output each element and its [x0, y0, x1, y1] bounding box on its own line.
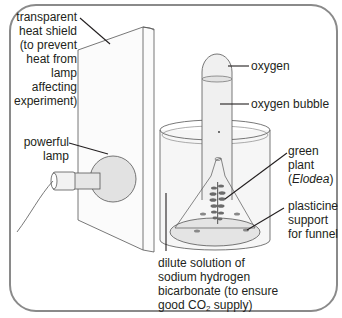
- plant-label-line: plant: [288, 158, 333, 172]
- paren-close: ): [329, 172, 333, 186]
- support-label-line: for funnel: [288, 227, 338, 241]
- solution-label-line: dilute solution of: [158, 256, 278, 270]
- lamp-label-line: powerful: [14, 135, 69, 149]
- lamp-label: powerful lamp: [14, 135, 69, 163]
- diagram-canvas: transparent heat shield (to prevent heat…: [0, 0, 342, 318]
- co2-text: good CO: [158, 298, 206, 312]
- plant-label-line: green: [288, 144, 333, 158]
- oxygen-label: oxygen: [251, 59, 290, 73]
- heat-shield-label: transparent heat shield (to prevent heat…: [14, 10, 77, 108]
- heat-shield-label-line: affecting: [14, 80, 77, 94]
- support-label: plasticine support for funnel: [288, 199, 338, 241]
- test-tube: [202, 54, 232, 200]
- heat-shield-label-line: transparent: [14, 10, 77, 24]
- heat-shield-label-line: lamp: [14, 66, 77, 80]
- oxygen-bubble-label: oxygen bubble: [251, 97, 329, 111]
- plant-label: green plant (Elodea): [288, 144, 333, 186]
- heat-shield-label-line: (to prevent: [14, 38, 77, 52]
- support-label-line: plasticine: [288, 199, 338, 213]
- supply-text: supply): [210, 298, 252, 312]
- lamp-label-line: lamp: [14, 149, 69, 163]
- solution-label-line: bicarbonate (to ensure: [158, 284, 278, 298]
- solution-label-line: good CO2 supply): [158, 298, 278, 312]
- lamp-cable: [17, 181, 53, 232]
- species-name: Elodea: [292, 172, 329, 186]
- heat-shield-label-line: heat from: [14, 52, 77, 66]
- heat-shield-label-line: experiment): [14, 94, 77, 108]
- heat-shield-label-line: heat shield: [14, 24, 77, 38]
- plant-label-line: (Elodea): [288, 172, 333, 186]
- support-label-line: support: [288, 213, 338, 227]
- solution-label-line: sodium hydrogen: [158, 270, 278, 284]
- solution-label: dilute solution of sodium hydrogen bicar…: [158, 256, 278, 312]
- heat-shield: [78, 27, 154, 252]
